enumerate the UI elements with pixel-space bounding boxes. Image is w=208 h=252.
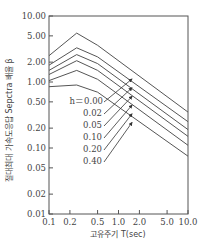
plot-frame [49,16,188,214]
y-tick-label: 0.02 [27,189,46,199]
damping-label: 0.40 [83,156,102,166]
y-tick-label: 5.00 [27,31,46,41]
spectrum-curves [49,33,188,156]
response-spectrum-chart: 10.005.002.001.000.500.200.100.050.020.0… [0,0,208,252]
y-axis-label: 절대최대 가속도응답 Sepctra 배율 β [4,58,14,181]
y-tick-label: 0.10 [27,143,46,153]
y-axis-ticks: 10.005.002.001.000.500.200.100.050.020.0… [22,11,53,219]
x-tick-label: 10.0 [179,217,198,227]
x-tick-label: 0.5 [91,217,105,227]
x-tick-label: 2.0 [133,217,147,227]
y-tick-label: 0.50 [27,97,46,107]
curve-0.20 [49,70,188,145]
y-tick-label: 1.00 [27,77,46,87]
x-tick-label: 0.2 [63,217,77,227]
x-tick-label: 0.1 [42,217,56,227]
x-axis-label: 고유주기 T(sec) [90,230,145,239]
damping-labels: h＝0.000.020.050.100.200.40 [70,79,132,166]
y-tick-label: 2.00 [27,57,46,67]
y-tick-label: 0.20 [27,123,46,133]
damping-label: h＝0.00 [70,96,103,106]
curve-0.05 [49,55,188,130]
damping-label: 0.02 [83,108,102,118]
damping-label: 0.10 [83,132,102,142]
y-tick-label: 10.00 [22,11,46,21]
x-axis-ticks: 0.10.20.51.02.05.010.0 [42,210,197,227]
x-tick-label: 5.0 [160,217,174,227]
damping-label: 0.20 [83,144,102,154]
y-tick-label: 0.05 [27,163,46,173]
x-tick-label: 1.0 [112,217,126,227]
damping-label: 0.05 [83,120,102,130]
